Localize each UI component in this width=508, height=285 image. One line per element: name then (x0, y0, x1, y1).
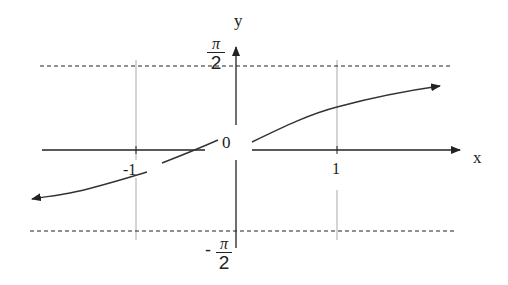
lower-asymptote-label: π 2 (216, 236, 232, 272)
pi-numerator: π (207, 36, 225, 51)
negative-sign: - (205, 241, 211, 259)
denominator: 2 (207, 54, 225, 72)
denominator: 2 (216, 254, 232, 272)
arctan-graph (0, 0, 508, 285)
origin-label: 0 (222, 134, 231, 151)
x-axis-label: x (473, 149, 482, 166)
y-axis-label: y (234, 12, 243, 29)
curve-left-segment-inner (162, 140, 218, 163)
curve-right-branch (252, 86, 440, 142)
x-tick-label-1: 1 (332, 161, 340, 177)
upper-asymptote-label: π 2 (207, 36, 225, 72)
pi-numerator: π (216, 236, 232, 251)
x-tick-label-neg1: -1 (123, 162, 136, 178)
